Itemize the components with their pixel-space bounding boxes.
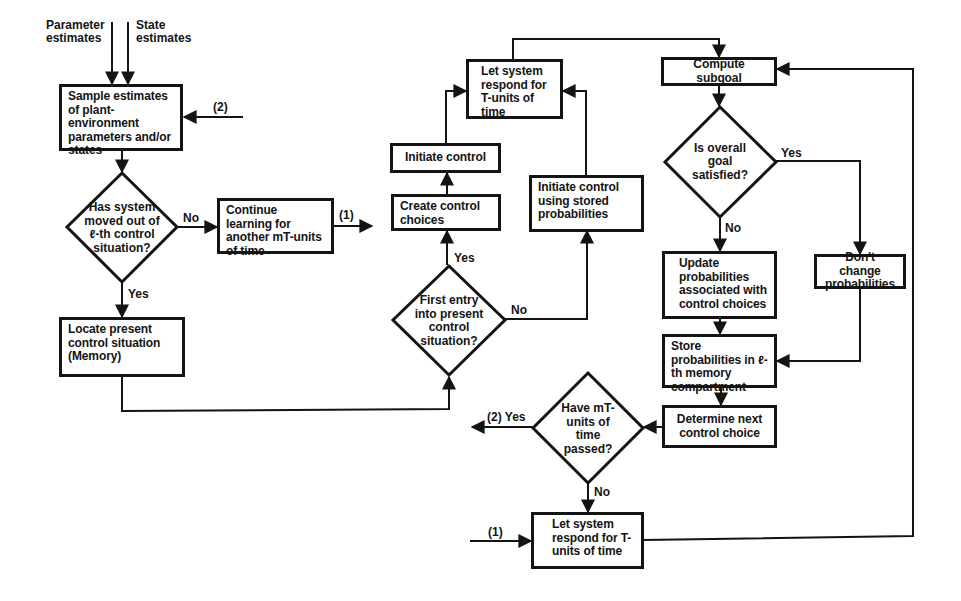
connector-1-in-label: (1) bbox=[488, 526, 503, 539]
mt-passed-no-label: No bbox=[594, 486, 610, 499]
locate-situation-box: Locate present control situation (Memory… bbox=[59, 317, 185, 377]
first-entry-yes-label: Yes bbox=[454, 252, 475, 265]
first-entry-text: First entry into present control situati… bbox=[412, 282, 486, 360]
compute-subgoal-box: Compute subgoal bbox=[661, 57, 777, 86]
first-entry-no-label: No bbox=[511, 304, 527, 317]
initiate-control-stored-box: Initiate control using stored probabilit… bbox=[529, 175, 644, 232]
mt-passed-text: Have mT-units of time passed? bbox=[555, 396, 621, 462]
has-moved-text: Has system moved out of ℓ-th control sit… bbox=[80, 186, 164, 270]
sample-estimates-box: Sample estimates of plant-environment pa… bbox=[59, 84, 183, 151]
let-system-respond-bottom-box: Let system respond for T-units of time bbox=[531, 512, 644, 569]
create-control-choices-box: Create control choices bbox=[391, 194, 501, 231]
initiate-control-box: Initiate control bbox=[390, 143, 501, 173]
state-estimates-label: State estimates bbox=[136, 19, 191, 45]
connector-1-out-label: (1) bbox=[339, 209, 354, 222]
dont-change-probabilities-box: Don't change probabilities bbox=[814, 254, 906, 289]
let-system-respond-top-box: Let system respond for T-units of time bbox=[466, 59, 563, 119]
has-moved-no-label: No bbox=[183, 212, 199, 225]
goal-satisfied-text: Is overall goal satisfied? bbox=[690, 130, 750, 194]
mt-passed-yes-label: (2) Yes bbox=[487, 411, 525, 424]
store-probabilities-box: Store probabilities in ℓ-th memory compa… bbox=[662, 334, 777, 388]
goal-satisfied-yes-label: Yes bbox=[781, 147, 802, 160]
determine-next-choice-box: Determine next control choice bbox=[662, 405, 777, 448]
goal-satisfied-no-label: No bbox=[725, 222, 741, 235]
parameter-estimates-label: Parameter estimates bbox=[46, 19, 105, 45]
connector-2-in-label: (2) bbox=[213, 101, 228, 114]
continue-learning-box: Continue learning for another mT-units o… bbox=[217, 198, 334, 254]
update-probabilities-box: Update probabilities associated with con… bbox=[662, 251, 777, 319]
has-moved-yes-label: Yes bbox=[128, 288, 149, 301]
